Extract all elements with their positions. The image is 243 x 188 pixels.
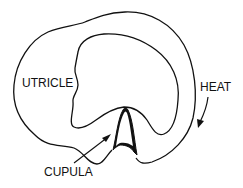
heat-label: HEAT xyxy=(200,80,231,94)
semicircular-canal-diagram xyxy=(0,0,243,188)
utricle-label: UTRICLE xyxy=(22,76,73,90)
cupula-label: CUPULA xyxy=(44,165,93,179)
heat-arrowhead-icon xyxy=(197,119,204,128)
heat-flow-arrow xyxy=(200,97,208,122)
cupula-pointer-arrow xyxy=(74,137,108,163)
